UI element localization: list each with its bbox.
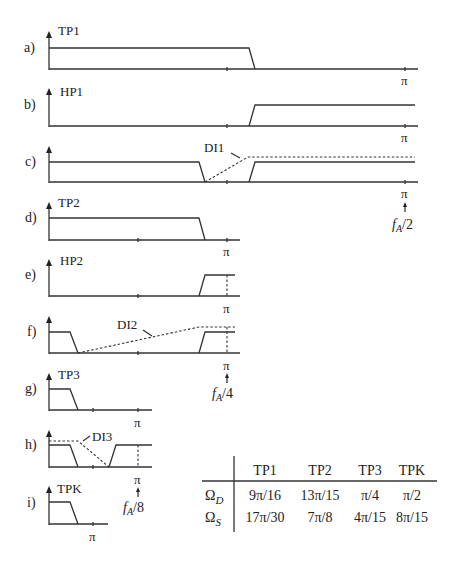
panel-i: i) TPK π: [27, 481, 108, 544]
row-header-omega-s: ΩS: [205, 510, 221, 528]
panel-a: a) TP1 π: [24, 23, 418, 88]
panel-label-b: b): [24, 97, 36, 113]
fa-quarter-marker: fA/4: [212, 386, 233, 403]
tp1-response: [49, 48, 255, 69]
pi-label: π: [223, 244, 230, 259]
edge-frequency-table: TP1 TP2 TP3 TPK ΩD 9π/16 13π/15 π/4 π/2 …: [202, 456, 437, 532]
panel-g: g) TP3 π: [25, 367, 152, 430]
panel-title-tp2: TP2: [58, 195, 80, 210]
panel-label-a: a): [24, 40, 35, 56]
panel-label-c: c): [25, 154, 36, 170]
tp2-response: [49, 218, 205, 240]
fa-eighth-marker: fA/8: [123, 500, 144, 517]
panel-title-hp2: HP2: [60, 253, 83, 268]
panel-label-e: e): [25, 267, 36, 283]
panel-label-f: f): [27, 324, 37, 340]
tp3-response: [49, 389, 78, 410]
annotation-di3: DI3: [92, 429, 112, 444]
pi-label: π: [134, 415, 141, 430]
hp1-response: [249, 105, 415, 126]
pi-label: π: [223, 301, 230, 316]
axis-arrow-icon: [46, 202, 52, 209]
table-cell: 13π/15: [301, 488, 340, 503]
pi-label: π: [89, 529, 96, 544]
table-cell: 7π/8: [308, 510, 333, 525]
lowpass-response: [49, 445, 78, 467]
axis-arrow-icon: [46, 316, 52, 323]
annotation-di1: DI1: [204, 140, 224, 155]
pi-label: π: [401, 186, 408, 201]
filter-diagram: a) TP1 π b) HP1 π c) DI1 π fA: [0, 0, 459, 563]
di2-interference: [78, 327, 235, 353]
highpass-response: [199, 332, 235, 353]
axis-arrow-icon: [46, 486, 52, 493]
panel-title-tp3: TP3: [58, 367, 80, 382]
fa-half-marker: fA/2: [392, 217, 413, 234]
arrow-up-icon: [403, 202, 407, 207]
table-cell: π/2: [403, 488, 421, 503]
pi-label: π: [401, 130, 408, 145]
table-cell: 8π/15: [396, 510, 428, 525]
panel-c: c) DI1 π fA/2: [25, 140, 418, 234]
tpk-response: [49, 502, 78, 524]
axis-arrow-icon: [46, 259, 52, 266]
panel-label-i: i): [27, 495, 36, 511]
panel-label-d: d): [25, 210, 37, 226]
di3-leader: [83, 436, 90, 441]
col-header: TP3: [358, 463, 381, 478]
hp2-response: [199, 275, 235, 296]
col-header: TP2: [308, 463, 331, 478]
axis-arrow-icon: [46, 373, 52, 380]
pi-label: π: [134, 472, 141, 487]
di2-leader: [143, 330, 152, 336]
table-cell: π/4: [361, 488, 379, 503]
lowpass-response: [49, 332, 78, 353]
panel-b: b) HP1 π: [24, 84, 418, 145]
table-cell: 17π/30: [246, 510, 285, 525]
col-header: TP1: [253, 463, 276, 478]
col-header: TPK: [399, 463, 425, 478]
panel-title-tpk: TPK: [57, 481, 82, 496]
di1-interference: [205, 157, 415, 182]
di1-leader: [231, 153, 240, 158]
axis-arrow-icon: [46, 430, 52, 437]
panel-title-hp1: HP1: [60, 84, 83, 99]
highpass-response: [249, 162, 415, 182]
panel-label-h: h): [25, 437, 37, 453]
panel-f: f) DI2 π fA/4: [27, 316, 240, 403]
axis-arrow-icon: [46, 88, 52, 95]
highpass-response: [109, 445, 152, 467]
pi-label: π: [223, 358, 230, 373]
axis-arrow-icon: [46, 146, 52, 153]
panel-label-g: g): [25, 381, 37, 397]
arrow-up-icon: [136, 487, 140, 492]
arrow-up-icon: [225, 373, 229, 378]
lowpass-response: [49, 162, 205, 182]
panel-d: d) TP2 π: [25, 195, 240, 259]
table-cell: 9π/16: [249, 488, 281, 503]
pi-label: π: [401, 73, 408, 88]
panel-title-tp1: TP1: [58, 23, 80, 38]
row-header-omega-d: ΩD: [205, 488, 223, 506]
panel-h: h) DI3 π fA/8: [25, 429, 152, 517]
panel-e: e) HP2 π: [25, 253, 240, 316]
annotation-di2: DI2: [117, 317, 137, 332]
axis-arrow-icon: [46, 31, 52, 38]
table-cell: 4π/15: [354, 510, 386, 525]
